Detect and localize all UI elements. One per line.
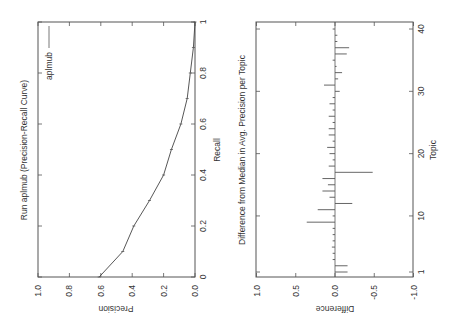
diff-value-tick-label: 0.0 xyxy=(330,285,340,297)
pr-tick-labels: 00.20.40.60.811.00.80.60.40.20.0 xyxy=(33,19,208,296)
pr-recall-tick-label: 0 xyxy=(198,274,208,279)
pr-precision-tick-label: 1.0 xyxy=(33,285,43,297)
diff-value-tick-label: -0.5 xyxy=(369,285,379,300)
pr-precision-tick-label: 0.0 xyxy=(190,285,200,297)
diff-xlabel-topic: Topic xyxy=(428,139,438,160)
diff-topic-tick-label: 20 xyxy=(416,149,426,159)
pr-recall-tick-label: 0.6 xyxy=(198,118,208,130)
diff-tick-labels: 1102030401.00.50.0-0.5-1.0 xyxy=(252,24,427,300)
pr-markers xyxy=(98,22,197,277)
pr-recall-tick-label: 0.4 xyxy=(198,169,208,181)
pr-precision-tick-label: 0.6 xyxy=(96,285,106,297)
pr-curve-aplmub xyxy=(99,22,195,277)
pr-precision-tick-label: 0.4 xyxy=(127,285,137,297)
diff-ylabel-difference: Difference xyxy=(315,304,354,314)
diff-topic-tick-label: 1 xyxy=(416,269,426,274)
diff-topic-tick-label: 40 xyxy=(416,24,426,34)
pr-recall-tick-label: 0.8 xyxy=(198,67,208,79)
pr-legend-label: aplmub xyxy=(44,52,54,80)
pr-xlabel-recall: Recall xyxy=(212,138,222,162)
diff-topic-tick-label: 10 xyxy=(416,211,426,221)
figure: 00.20.40.60.811.00.80.60.40.20.0 aplmub … xyxy=(0,0,457,332)
pr-precision-tick-label: 0.8 xyxy=(64,285,74,297)
difference-per-topic-chart: 1102030401.00.50.0-0.5-1.0 Difference fr… xyxy=(237,22,438,314)
pr-recall-tick-label: 0.2 xyxy=(198,220,208,232)
diff-value-tick-label: 0.5 xyxy=(291,285,301,297)
pr-legend: aplmub xyxy=(44,26,54,80)
diff-bars xyxy=(307,29,373,272)
pr-recall-tick-label: 1 xyxy=(198,19,208,24)
diff-value-tick-label: 1.0 xyxy=(252,285,262,297)
diff-title: Difference from Median in Avg. Precision… xyxy=(237,54,247,245)
diff-value-tick-label: -1.0 xyxy=(409,285,419,300)
diff-topic-tick-label: 30 xyxy=(416,86,426,96)
pr-precision-tick-label: 0.2 xyxy=(159,285,169,297)
pr-ylabel-precision: Precision xyxy=(98,304,133,314)
precision-recall-chart: 00.20.40.60.811.00.80.60.40.20.0 aplmub … xyxy=(19,19,222,314)
pr-title: Run aplmub (Precision-Recall Curve) xyxy=(19,80,29,220)
